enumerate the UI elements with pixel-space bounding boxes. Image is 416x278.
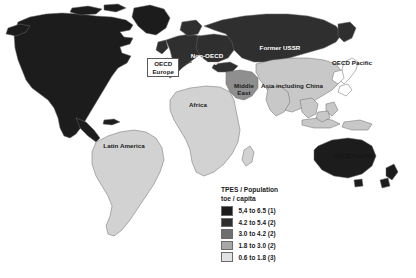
world-map-figure: OECD Europe Non-OECD Europe Former USSR … bbox=[0, 0, 416, 278]
region-north-america[interactable] bbox=[14, 13, 133, 138]
region-canadian-arctic[interactable] bbox=[70, 6, 102, 15]
map-label-former-ussr[interactable]: Former USSR bbox=[256, 44, 304, 51]
legend-swatch bbox=[221, 252, 233, 262]
legend-label: 0.6 to 1.8 (3) bbox=[239, 254, 276, 261]
legend-row[interactable]: 4.2 to 5.4 (2) bbox=[221, 217, 313, 227]
legend-row[interactable]: 1.8 to 3.0 (2) bbox=[221, 241, 313, 251]
region-oecd-pacific-japan-south[interactable] bbox=[338, 84, 352, 96]
legend-swatch bbox=[221, 241, 233, 251]
world-map-graphic bbox=[0, 0, 416, 278]
map-label-oecd-europe[interactable]: OECD Europe bbox=[147, 58, 179, 77]
legend-label: 4.2 to 5.4 (2) bbox=[239, 219, 276, 226]
legend-swatch bbox=[221, 206, 233, 216]
region-new-zealand[interactable] bbox=[386, 164, 398, 180]
region-madagascar[interactable] bbox=[242, 146, 254, 166]
legend-swatch bbox=[221, 218, 233, 228]
region-new-zealand-south[interactable] bbox=[380, 178, 390, 188]
region-scandinavia[interactable] bbox=[180, 20, 202, 36]
map-label-middle-east[interactable]: Middle East bbox=[231, 82, 257, 96]
legend-label: 1.8 to 3.0 (2) bbox=[239, 242, 276, 249]
legend-title-line2: toe / capita bbox=[221, 195, 313, 204]
region-kamchatka[interactable] bbox=[338, 22, 356, 42]
region-india[interactable] bbox=[266, 86, 290, 116]
legend-row[interactable]: 5,4 to 6.5 (1) bbox=[221, 206, 313, 216]
region-arctic-island-2[interactable] bbox=[104, 4, 126, 12]
map-label-non-oecd-europe[interactable]: Non-OECD Europe bbox=[186, 52, 228, 66]
legend-row[interactable]: 0.6 to 1.8 (3) bbox=[221, 252, 313, 262]
map-label-oecd-pacific[interactable]: OECD Pacific bbox=[330, 59, 374, 66]
region-tasmania[interactable] bbox=[354, 179, 363, 187]
legend-swatch bbox=[221, 229, 233, 239]
map-label-oecd-pacific-australia[interactable]: OECD Pacific bbox=[331, 152, 375, 159]
legend-label: 3.0 to 4.2 (2) bbox=[239, 230, 276, 237]
legend-title: TPES / Population toe / capita bbox=[221, 186, 313, 203]
legend-title-line1: TPES / Population bbox=[221, 186, 313, 195]
region-central-america[interactable] bbox=[76, 118, 100, 142]
region-southeast-asia[interactable] bbox=[300, 98, 318, 118]
map-label-asia-including-china[interactable]: Asia including China bbox=[257, 82, 327, 89]
map-label-africa[interactable]: Africa bbox=[182, 101, 214, 108]
region-africa[interactable] bbox=[170, 86, 240, 176]
legend-label: 5,4 to 6.5 (1) bbox=[239, 207, 276, 214]
region-new-guinea[interactable] bbox=[342, 120, 372, 130]
region-caribbean[interactable] bbox=[103, 119, 120, 125]
map-label-latin-america[interactable]: Latin America bbox=[96, 142, 152, 149]
region-greenland[interactable] bbox=[132, 5, 170, 35]
legend-row[interactable]: 3.0 to 4.2 (2) bbox=[221, 229, 313, 239]
map-legend: TPES / Population toe / capita 5,4 to 6.… bbox=[221, 186, 313, 264]
region-british-isles[interactable] bbox=[156, 40, 168, 54]
